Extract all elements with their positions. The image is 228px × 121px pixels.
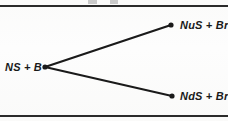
node-dot-product-upper (168, 22, 173, 27)
node-label-product-lower: NdS + Br (180, 91, 228, 102)
node-label-product-upper: NuS + Br (180, 20, 228, 31)
node-dot-reactant (42, 64, 47, 69)
reaction-branching-figure: NS + B NuS + Br NdS + Br (0, 0, 228, 121)
branch-line-lower (45, 67, 172, 96)
node-dot-product-lower (169, 93, 174, 98)
node-label-reactant: NS + B (5, 62, 42, 73)
branch-line-upper (45, 25, 171, 67)
